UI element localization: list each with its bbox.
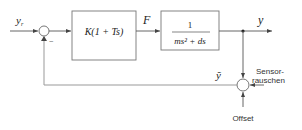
feedback-arrowhead xyxy=(41,36,47,41)
minus-sign: − xyxy=(49,37,54,46)
controller-block: K(1 + Ts) xyxy=(72,11,136,60)
reference-label: yr xyxy=(15,14,24,27)
control-force-label: F xyxy=(142,13,151,27)
plant-numerator: 1 xyxy=(188,20,193,30)
error-summing-junction xyxy=(39,26,49,36)
output-label: y xyxy=(257,13,264,27)
reference-input: yr xyxy=(10,14,38,31)
sensor-summing-junction xyxy=(237,79,249,91)
block-diagram: yr − K(1 + Ts) F 1 ms² + ds y Sensor- ra… xyxy=(0,0,302,130)
sensor-noise-label-2: rauschen xyxy=(252,76,285,85)
sensor-noise-label-1: Sensor- xyxy=(256,67,284,76)
offset-label: Offset xyxy=(232,114,254,123)
plant-block: 1 ms² + ds xyxy=(161,11,219,50)
measured-output-label: ỹ xyxy=(215,69,222,81)
controller-label: K(1 + Ts) xyxy=(84,26,124,38)
plant-denominator: ms² + ds xyxy=(174,36,206,46)
